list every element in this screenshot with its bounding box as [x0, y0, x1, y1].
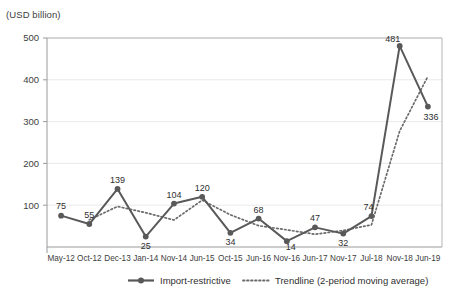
- data-point-value-label: 55: [84, 210, 94, 220]
- x-axis-tick-label: Jan-14: [133, 254, 158, 263]
- y-axis-tick-label: 100: [23, 200, 39, 211]
- data-point-value-label: 68: [254, 205, 264, 215]
- data-point-marker: [369, 213, 375, 219]
- data-point-value-label: 74: [363, 202, 373, 212]
- data-point-value-label: 120: [195, 183, 210, 193]
- x-axis-tick-label: Nov-16: [274, 254, 301, 263]
- x-axis-tick-label: Jun-19: [415, 254, 440, 263]
- x-axis-tick-label: Jul-18: [360, 254, 383, 263]
- y-axis: 100200300400500: [23, 32, 47, 253]
- data-point-value-label: 481: [385, 34, 400, 44]
- gridlines: [47, 38, 442, 205]
- y-axis-tick-label: 300: [23, 116, 39, 127]
- y-axis-tick-label: 200: [23, 158, 39, 169]
- data-point-marker: [143, 234, 149, 240]
- y-axis-tick-label: 400: [23, 74, 39, 85]
- x-axis-tick-label: Dec-13: [104, 254, 131, 263]
- x-axis: May-12Oct-12Dec-13Jan-14Nov-14Jun-15Oct-…: [47, 247, 442, 263]
- data-point-value-label: 32: [338, 238, 348, 248]
- data-point-marker: [425, 104, 431, 110]
- legend-label-trendline: Trendline (2-period moving average): [275, 275, 428, 286]
- data-point-marker: [58, 213, 64, 219]
- data-point-marker: [115, 186, 121, 192]
- y-axis-tick-label: 500: [23, 32, 39, 43]
- legend-label-import-restrictive: Import-restrictive: [160, 275, 231, 286]
- chart-container: (USD billion) 100200300400500 May-12Oct-…: [0, 0, 461, 298]
- legend-marker-import-restrictive: [138, 278, 144, 284]
- data-point-value-label: 25: [141, 241, 151, 251]
- data-point-value-label: 47: [310, 213, 320, 223]
- data-point-marker: [227, 230, 233, 236]
- x-axis-tick-label: Jun-17: [303, 254, 328, 263]
- data-point-marker: [340, 231, 346, 237]
- x-axis-tick-label: Jun-15: [190, 254, 215, 263]
- line-chart-plot: 100200300400500 May-12Oct-12Dec-13Jan-14…: [0, 0, 461, 298]
- x-axis-tick-label: Nov-18: [386, 254, 413, 263]
- x-axis-tick-label: Nov-14: [161, 254, 188, 263]
- chart-legend: Import-restrictiveTrendline (2-period mo…: [128, 275, 428, 286]
- data-point-value-label: 104: [166, 190, 181, 200]
- data-point-value-label: 336: [423, 112, 438, 122]
- data-point-marker: [256, 216, 262, 222]
- data-point-marker: [171, 201, 177, 207]
- data-point-marker: [312, 224, 318, 230]
- x-axis-tick-label: Oct-12: [77, 254, 102, 263]
- x-axis-tick-label: Oct-15: [218, 254, 243, 263]
- data-point-marker: [199, 194, 205, 200]
- data-point-value-label: 34: [225, 237, 235, 247]
- data-point-value-label: 139: [110, 175, 125, 185]
- x-axis-tick-label: Jun-16: [246, 254, 271, 263]
- data-point-value-label: 75: [56, 201, 66, 211]
- data-point-marker: [86, 221, 92, 227]
- x-axis-tick-label: May-12: [47, 254, 75, 263]
- data-value-labels: 755513925104120346814473274481336: [56, 34, 438, 252]
- data-point-value-label: 14: [286, 242, 296, 252]
- x-axis-tick-label: Nov-17: [330, 254, 357, 263]
